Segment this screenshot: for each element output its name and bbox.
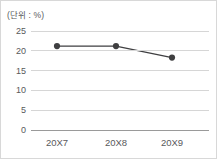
x-tick-label-20X9: 20X9 — [147, 137, 197, 148]
data-point-20X9[interactable] — [169, 54, 175, 60]
gridline-y-20 — [31, 50, 209, 51]
data-point-20X7[interactable] — [54, 43, 60, 49]
gridline-y-25 — [31, 31, 209, 32]
x-tick-label-20X7: 20X7 — [32, 137, 82, 148]
x-axis-line — [31, 130, 209, 132]
y-tick-label: 25 — [1, 26, 26, 36]
gridline-y-15 — [31, 70, 209, 71]
chart-screenshot: (단위 : %) 051015202520X720X820X9 — [0, 0, 217, 159]
y-tick-label: 5 — [1, 105, 26, 115]
y-tick-label: 0 — [1, 125, 26, 135]
gridline-y-5 — [31, 110, 209, 111]
y-tick-label: 10 — [1, 85, 26, 95]
data-point-20X8[interactable] — [113, 43, 119, 49]
series-line-group — [1, 1, 217, 159]
y-tick-label: 20 — [1, 46, 26, 56]
x-tick-label-20X8: 20X8 — [91, 137, 141, 148]
y-tick-label: 15 — [1, 66, 26, 76]
plot-area: 051015202520X720X820X9 — [1, 1, 217, 159]
gridline-y-10 — [31, 90, 209, 91]
